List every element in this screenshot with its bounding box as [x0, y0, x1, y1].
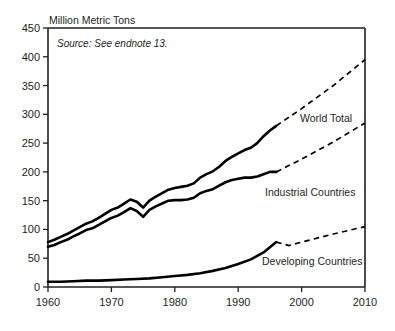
source-annotation: Source: See endnote 13.	[57, 38, 168, 49]
x-tick-label: 2000	[289, 296, 313, 308]
x-tick-label: 1960	[36, 296, 60, 308]
series-line-developing-countries	[48, 242, 276, 282]
x-axis-ticks: 196019701980199020002010	[36, 287, 377, 308]
x-tick-label: 1970	[99, 296, 123, 308]
chart-container: Million Metric Tons Source: See endnote …	[0, 0, 395, 331]
series-label-industrial-countries: Industrial Countries	[265, 186, 355, 198]
y-tick-label: 50	[28, 252, 40, 264]
y-tick-label: 350	[22, 80, 40, 92]
y-tick-label: 250	[22, 137, 40, 149]
series-label-world-total: World Total	[300, 112, 352, 124]
x-tick-label: 1980	[163, 296, 187, 308]
y-tick-label: 0	[34, 281, 40, 293]
y-tick-label: 100	[22, 223, 40, 235]
series-projection-industrial-countries	[276, 123, 365, 172]
chart-axis-title: Million Metric Tons	[49, 14, 135, 26]
series-projection-developing-countries	[276, 227, 365, 246]
y-tick-label: 150	[22, 195, 40, 207]
line-chart: Million Metric Tons Source: See endnote …	[0, 0, 395, 331]
y-tick-label: 450	[22, 22, 40, 34]
x-tick-label: 2010	[353, 296, 377, 308]
y-tick-label: 400	[22, 51, 40, 63]
series-label-developing-countries: Developing Countries	[262, 255, 362, 267]
y-tick-label: 300	[22, 108, 40, 120]
y-tick-label: 200	[22, 166, 40, 178]
series-line-industrial-countries	[48, 172, 276, 247]
y-axis-ticks: 050100150200250300350400450	[22, 22, 48, 293]
x-tick-label: 1990	[226, 296, 250, 308]
series-line-world-total	[48, 126, 276, 242]
series-layer	[48, 60, 365, 282]
